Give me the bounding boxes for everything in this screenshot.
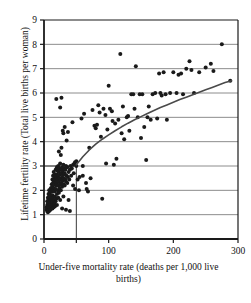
y-tick-label: 8: [32, 40, 37, 50]
y-tick-label: 0: [32, 234, 37, 244]
data-point: [60, 207, 64, 211]
data-point: [145, 115, 149, 119]
data-point: [96, 103, 100, 107]
data-point: [55, 203, 59, 207]
data-point: [165, 118, 169, 122]
data-point: [175, 91, 179, 95]
data-point: [209, 62, 213, 66]
data-point: [160, 93, 164, 97]
data-point: [81, 174, 85, 178]
data-point: [184, 67, 188, 71]
data-point: [81, 164, 85, 168]
data-point: [179, 72, 183, 76]
data-point: [204, 65, 208, 69]
data-point: [164, 92, 168, 96]
data-point: [59, 153, 63, 157]
data-point: [84, 181, 88, 185]
data-point: [103, 113, 107, 117]
data-point: [73, 187, 77, 191]
tick-labels-group: 01234567890100200300: [32, 15, 245, 256]
data-point: [116, 118, 120, 122]
data-point: [127, 129, 131, 133]
data-point: [100, 197, 104, 201]
y-axis-title: Lifetime fertility rate (Total live birt…: [20, 24, 32, 224]
x-tick-label: 0: [42, 246, 47, 256]
data-point: [94, 126, 98, 130]
data-point: [153, 91, 157, 95]
data-point: [140, 92, 144, 96]
data-point: [126, 114, 130, 118]
data-point: [104, 162, 108, 166]
data-point: [89, 176, 93, 180]
data-point: [142, 125, 146, 129]
x-axis-title: Under-five mortality rate (deaths per 1,…: [26, 262, 231, 286]
y-tick-label: 3: [32, 161, 37, 171]
data-point: [168, 91, 172, 95]
data-point: [211, 69, 215, 73]
data-point: [91, 108, 95, 112]
data-point: [70, 166, 74, 170]
data-point: [63, 125, 67, 129]
axes-group: [44, 20, 238, 239]
y-tick-label: 4: [32, 137, 37, 147]
data-point: [188, 59, 192, 63]
data-point: [95, 123, 99, 127]
data-point: [120, 131, 124, 135]
data-point: [162, 70, 166, 74]
data-point: [149, 118, 153, 122]
data-point: [65, 181, 69, 185]
data-point: [58, 198, 62, 202]
data-point: [98, 110, 102, 114]
data-point: [220, 42, 224, 46]
data-point: [144, 158, 148, 162]
x-tick-label: 300: [231, 246, 246, 256]
data-point: [110, 109, 114, 113]
data-point: [139, 136, 143, 140]
data-point: [66, 130, 70, 134]
data-point: [118, 52, 122, 56]
data-point: [82, 112, 86, 116]
data-point: [105, 128, 109, 132]
data-point: [65, 138, 69, 142]
data-point: [70, 120, 74, 124]
data-point: [101, 107, 105, 111]
data-point: [189, 68, 193, 72]
y-tick-label: 7: [32, 64, 37, 74]
x-tick-label: 100: [102, 246, 117, 256]
data-point: [157, 72, 161, 76]
data-point: [58, 106, 62, 110]
data-point: [71, 183, 75, 187]
data-point: [147, 104, 151, 108]
data-point: [181, 92, 185, 96]
data-point: [114, 157, 118, 161]
y-tick-label: 5: [32, 113, 37, 123]
data-point: [112, 163, 116, 167]
fertility-vs-mortality-scatter-figure: 01234567890100200300 Under-five mortalit…: [0, 0, 251, 303]
data-point: [131, 92, 135, 96]
scatter-plot: 01234567890100200300: [0, 0, 251, 303]
data-point: [122, 137, 126, 141]
data-point: [134, 64, 138, 68]
data-point: [171, 70, 175, 74]
data-point: [64, 208, 68, 212]
data-point: [61, 131, 65, 135]
data-point: [59, 146, 63, 150]
data-point: [54, 97, 58, 101]
data-point: [113, 121, 117, 125]
data-point: [59, 188, 63, 192]
y-tick-label: 6: [32, 88, 37, 98]
data-point: [133, 107, 137, 111]
data-point: [67, 198, 71, 202]
y-tick-label: 9: [32, 15, 37, 25]
y-tick-label: 1: [32, 210, 37, 220]
data-points-group: [45, 42, 233, 214]
data-point: [77, 188, 81, 192]
data-point: [67, 177, 71, 181]
data-point: [57, 149, 61, 153]
y-tick-label: 2: [32, 186, 37, 196]
data-point: [80, 117, 84, 121]
data-point: [107, 84, 111, 88]
data-point: [59, 96, 63, 100]
data-point: [197, 70, 201, 74]
data-point: [86, 190, 90, 194]
